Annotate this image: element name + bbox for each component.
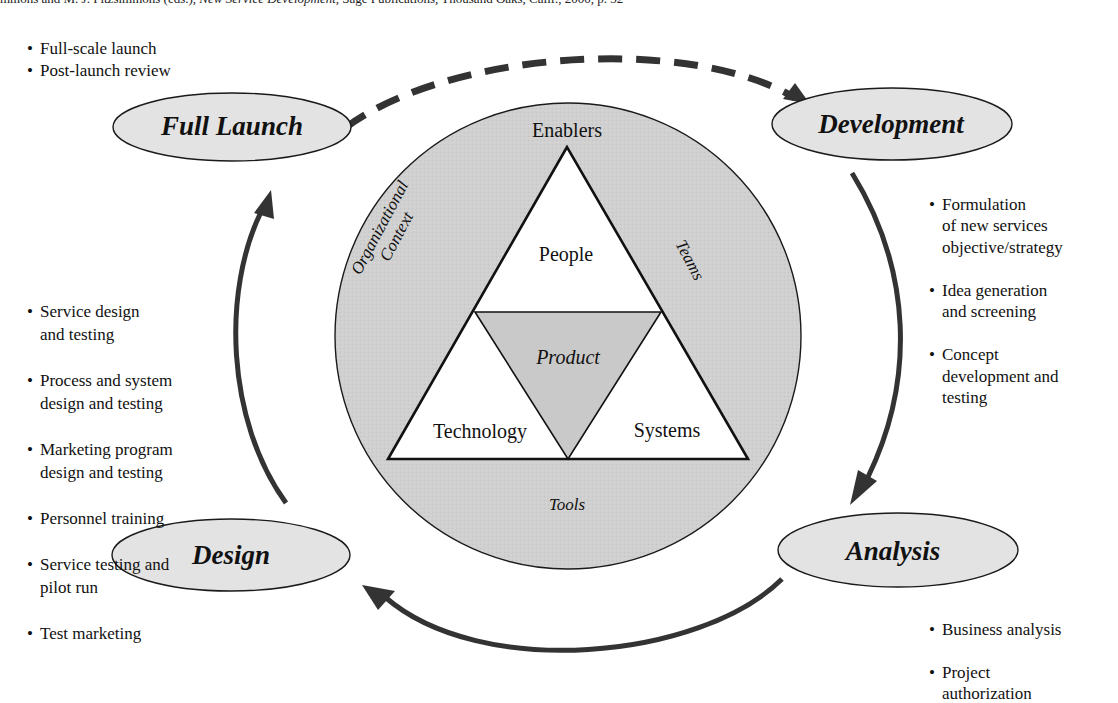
- flow-arrow-analysis-to-design: [362, 579, 782, 650]
- activity-item: Full-scale launch: [27, 38, 171, 60]
- activity-item: Process and system design and testing: [27, 369, 173, 415]
- people-label: People: [539, 243, 593, 266]
- stage-label-design: Design: [192, 540, 270, 571]
- activity-item: Service design and testing: [27, 300, 173, 346]
- activity-item: Service testing and pilot run: [27, 553, 173, 599]
- activity-item: Marketing program design and testing: [27, 438, 173, 484]
- stage-label-analysis: Analysis: [846, 536, 941, 567]
- flow-arrow-development-to-analysis: [850, 173, 900, 505]
- stage-label-development: Development: [818, 109, 963, 140]
- activity-item: Business analysis: [929, 619, 1061, 641]
- activity-item: Formulation of new services objective/st…: [929, 194, 1063, 259]
- development-activities: Formulation of new services objective/st…: [929, 172, 1063, 430]
- stage-label-full-launch: Full Launch: [161, 111, 303, 142]
- flow-arrow-design-to-full-launch: [236, 190, 286, 503]
- systems-label: Systems: [634, 419, 701, 442]
- tools-label: Tools: [549, 495, 585, 515]
- product-label: Product: [536, 346, 600, 369]
- enablers-label: Enablers: [532, 119, 602, 142]
- activity-item: Post-launch review: [27, 60, 171, 82]
- technology-label: Technology: [433, 420, 527, 443]
- activity-item: Concept development and testing: [929, 344, 1063, 409]
- analysis-activities: Business analysis Project authorization: [929, 597, 1061, 703]
- activity-item: Idea generation and screening: [929, 280, 1063, 323]
- activity-item: Test marketing: [27, 622, 173, 645]
- activity-item: Personnel training: [27, 507, 173, 530]
- design-activities: Service design and testing Process and s…: [27, 277, 173, 668]
- full-launch-activities: Full-scale launch Post-launch review: [27, 38, 171, 81]
- activity-item: Project authorization: [929, 662, 1061, 703]
